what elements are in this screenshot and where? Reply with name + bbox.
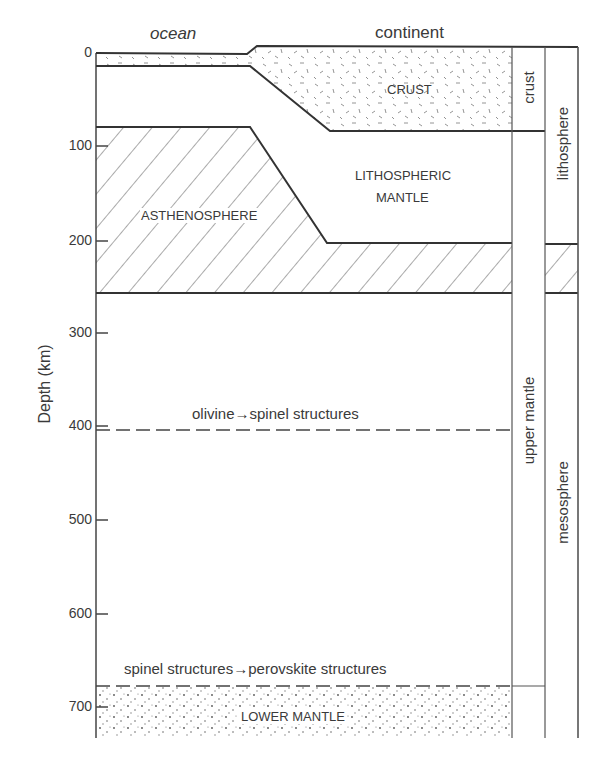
tick-label-300: 300	[52, 324, 92, 340]
tick-label-700: 700	[52, 698, 92, 714]
spinel-perovskite-label: spinel structures→perovskite structures	[124, 660, 387, 677]
column-upper-mantle-label: upper mantle	[520, 362, 537, 480]
olivine-spinel-label: olivine→spinel structures	[192, 405, 359, 422]
y-axis-title: Depth (km)	[36, 334, 54, 434]
column-lithosphere-label: lithosphere	[554, 94, 571, 194]
tick-label-600: 600	[52, 605, 92, 621]
tick-label-500: 500	[52, 511, 92, 527]
continent-label: continent	[375, 23, 444, 43]
tick-label-100: 100	[52, 137, 92, 153]
crust-fill	[96, 46, 512, 131]
column-crust-label: crust	[520, 48, 537, 128]
lithospheric-mantle-label-line1: LITHOSPHERIC	[355, 168, 451, 183]
tick-label-400: 400	[52, 417, 92, 433]
asthenosphere-label: ASTHENOSPHERE	[140, 208, 258, 223]
lithospheric-mantle-label-line2: MANTLE	[376, 190, 429, 205]
earth-structure-diagram	[0, 0, 607, 767]
crust-region-label: CRUST	[387, 82, 432, 97]
asthenosphere-column-fill	[545, 244, 578, 293]
lower-mantle-label: LOWER MANTLE	[239, 709, 347, 724]
tick-label-200: 200	[52, 232, 92, 248]
ocean-label: ocean	[150, 24, 196, 44]
tick-label-0: 0	[52, 44, 92, 60]
column-mesosphere-label: mesosphere	[554, 452, 571, 554]
